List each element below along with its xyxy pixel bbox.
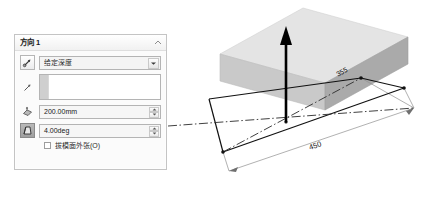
sketch-vertex-point <box>221 150 225 154</box>
chevron-up-icon[interactable] <box>154 39 162 46</box>
end-condition-row: 给定深度 <box>20 55 161 70</box>
panel-title: 方向 1 <box>20 39 40 47</box>
direction-reference-row <box>20 74 161 100</box>
listbox-gutter <box>40 75 49 99</box>
draft-angle-icon[interactable] <box>20 123 35 138</box>
centerline-horizontal <box>168 108 414 126</box>
dimension-extension-a <box>223 152 229 171</box>
depth-value: 200.00mm <box>44 108 77 115</box>
draft-outward-row[interactable]: 拔模面外张(O) <box>44 142 161 149</box>
sketch-edge-4 <box>209 99 223 152</box>
app-root: 方向 1 给定深度 <box>0 0 426 214</box>
direction-1-property-panel: 方向 1 给定深度 <box>14 34 167 170</box>
draft-angle-spinner[interactable] <box>149 126 159 137</box>
draft-outward-checkbox[interactable] <box>44 142 51 149</box>
end-condition-value: 给定深度 <box>44 59 72 66</box>
model-viewport[interactable]: 355 450 <box>168 0 426 214</box>
chevron-down-icon[interactable] <box>148 58 159 69</box>
sketch-vertex-point <box>402 86 406 90</box>
draft-angle-input[interactable]: 4.00deg <box>39 124 161 138</box>
depth-icon <box>20 104 35 119</box>
reverse-direction-icon[interactable] <box>20 55 35 70</box>
length-dimension-label: 450 <box>308 139 323 152</box>
dimension-witness-right <box>361 78 414 108</box>
draft-angle-row: 4.00deg <box>20 123 161 138</box>
draft-outward-label: 拔模面外张(O) <box>55 142 100 149</box>
direction-arrow-icon <box>20 80 35 95</box>
panel-body: 给定深度 <box>15 51 166 149</box>
end-condition-dropdown[interactable]: 给定深度 <box>39 56 161 70</box>
sketch-vertex-point <box>359 76 363 80</box>
draft-angle-value: 4.00deg <box>44 127 69 134</box>
extruded-box-solid <box>220 8 408 110</box>
panel-header[interactable]: 方向 1 <box>15 35 166 51</box>
spin-down-icon[interactable] <box>149 112 159 118</box>
depth-input[interactable]: 200.00mm <box>39 105 161 119</box>
depth-row: 200.00mm <box>20 104 161 119</box>
direction-reference-listbox[interactable] <box>39 74 161 100</box>
depth-spinner[interactable] <box>149 107 159 118</box>
spin-down-icon[interactable] <box>149 131 159 137</box>
